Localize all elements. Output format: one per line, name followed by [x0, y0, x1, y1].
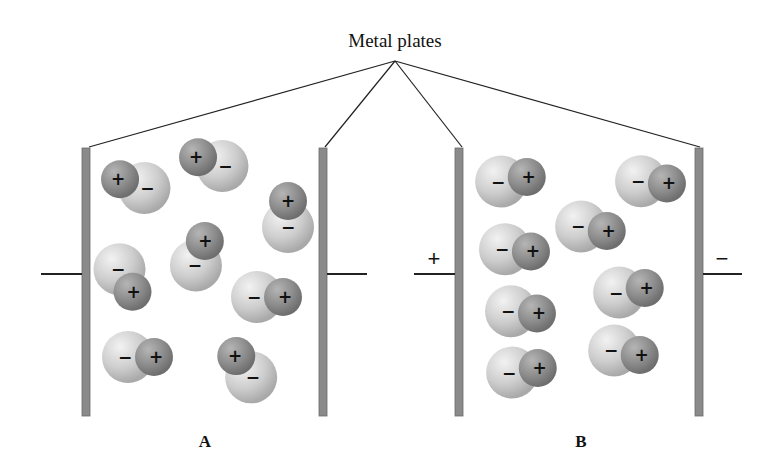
negative-sign: −: [631, 171, 645, 191]
panel-label-a: A: [199, 432, 212, 451]
polar-molecule: −+: [217, 337, 277, 403]
positive-sign: +: [640, 278, 654, 298]
plate-a-right: [319, 148, 327, 416]
positive-sign: +: [532, 303, 546, 323]
positive-sign: +: [149, 347, 163, 367]
positive-sign: +: [228, 346, 242, 366]
positive-sign: +: [662, 173, 676, 193]
polar-molecule: −+: [615, 155, 686, 207]
negative-sign: −: [246, 367, 260, 387]
polar-molecule: −+: [588, 324, 659, 376]
positive-sign: +: [281, 191, 295, 211]
negative-sign: −: [111, 259, 125, 279]
negative-sign: −: [281, 217, 295, 237]
metal-plates-label: Metal plates: [348, 30, 441, 51]
negative-terminal-sign: −: [716, 246, 729, 271]
positive-sign: +: [522, 167, 536, 187]
panel-label-b: B: [575, 432, 586, 451]
positive-sign: +: [602, 221, 616, 241]
polar-molecule: −+: [475, 156, 546, 208]
polar-molecule: −+: [479, 223, 550, 275]
positive-sign: +: [526, 241, 540, 261]
molecules-a: −+−+−+−+−+−+−+−+: [94, 138, 315, 403]
polar-molecule: −+: [593, 267, 664, 319]
polar-molecule: −+: [101, 160, 170, 214]
plate-b-left: [455, 148, 463, 416]
panel-b: + − −+−+−+−+−+−+−+−+ B: [414, 148, 742, 451]
polar-molecule: −+: [231, 271, 302, 323]
polar-molecule: −+: [170, 222, 224, 291]
negative-sign: −: [218, 156, 232, 176]
polar-molecule: −+: [262, 182, 314, 253]
positive-sign: +: [111, 169, 125, 189]
polar-molecule: −+: [102, 331, 173, 383]
negative-sign: −: [501, 301, 515, 321]
molecules-b: −+−+−+−+−+−+−+−+: [475, 155, 686, 398]
negative-sign: −: [491, 172, 505, 192]
leader-line-a-left: [89, 61, 395, 147]
leader-line-b-left: [395, 61, 462, 147]
polar-molecule: −+: [555, 200, 626, 252]
negative-sign: −: [140, 178, 154, 198]
positive-sign: +: [198, 231, 212, 251]
panel-a: −+−+−+−+−+−+−+−+ A: [41, 138, 367, 451]
leader-line-b-right: [395, 61, 700, 147]
negative-sign: −: [604, 340, 618, 360]
diagram-canvas: Metal plates −+−+−+−+−+−+−+−+ A + − −+−+…: [0, 0, 778, 467]
negative-sign: −: [247, 287, 261, 307]
negative-sign: −: [188, 255, 202, 275]
negative-sign: −: [118, 347, 132, 367]
polar-molecule: −+: [179, 138, 248, 192]
positive-sign: +: [189, 147, 203, 167]
polar-molecule: −+: [485, 285, 556, 337]
negative-sign: −: [609, 283, 623, 303]
negative-sign: −: [571, 216, 585, 236]
polar-molecule: −+: [486, 347, 557, 399]
positive-sign: +: [533, 358, 547, 378]
positive-terminal-sign: +: [428, 246, 441, 271]
polar-molecule: −+: [94, 243, 152, 311]
plate-a-left: [82, 148, 90, 416]
positive-sign: +: [635, 345, 649, 365]
leader-line-a-right: [325, 61, 395, 147]
negative-sign: −: [502, 363, 516, 383]
positive-sign: +: [278, 287, 292, 307]
positive-sign: +: [126, 282, 140, 302]
negative-sign: −: [495, 239, 509, 259]
plate-b-right: [695, 148, 703, 416]
leader-lines: [89, 61, 700, 147]
